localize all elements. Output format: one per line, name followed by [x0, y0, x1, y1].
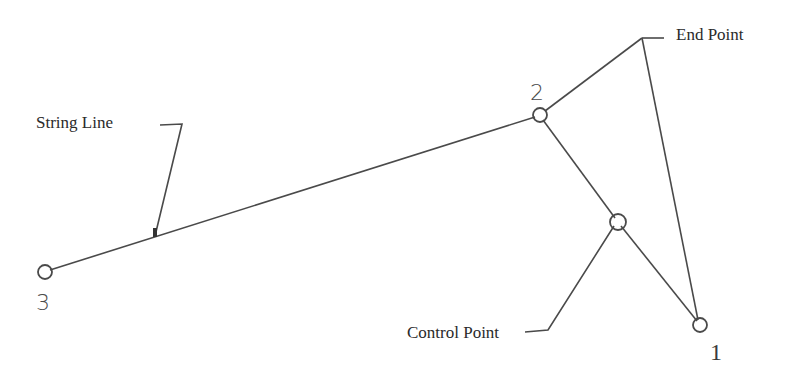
string-line-diagram: 2 3 1 String Line End Point Control Poin…	[0, 0, 800, 372]
point-1-label: 1	[710, 339, 722, 365]
string-line-leader-tick	[153, 228, 157, 237]
string-line-segment-2-control	[543, 120, 615, 218]
string-line-callout: String Line	[36, 113, 113, 132]
end-point-callout: End Point	[676, 25, 744, 44]
string-line-segment-control-1	[621, 226, 697, 321]
control-point-callout: Control Point	[407, 323, 499, 342]
point-1-marker	[693, 318, 707, 332]
end-point-leader-to-2	[545, 38, 642, 111]
string-line-leader	[155, 124, 182, 236]
control-point-leader	[525, 226, 614, 332]
string-line-segment-3-2	[50, 117, 535, 270]
point-2-marker	[533, 108, 547, 122]
point-2-label: 2	[530, 80, 544, 105]
point-3-label: 3	[36, 290, 50, 315]
end-point-leader-to-1	[642, 38, 698, 320]
control-point-marker	[610, 214, 626, 230]
point-3-marker	[38, 265, 52, 279]
